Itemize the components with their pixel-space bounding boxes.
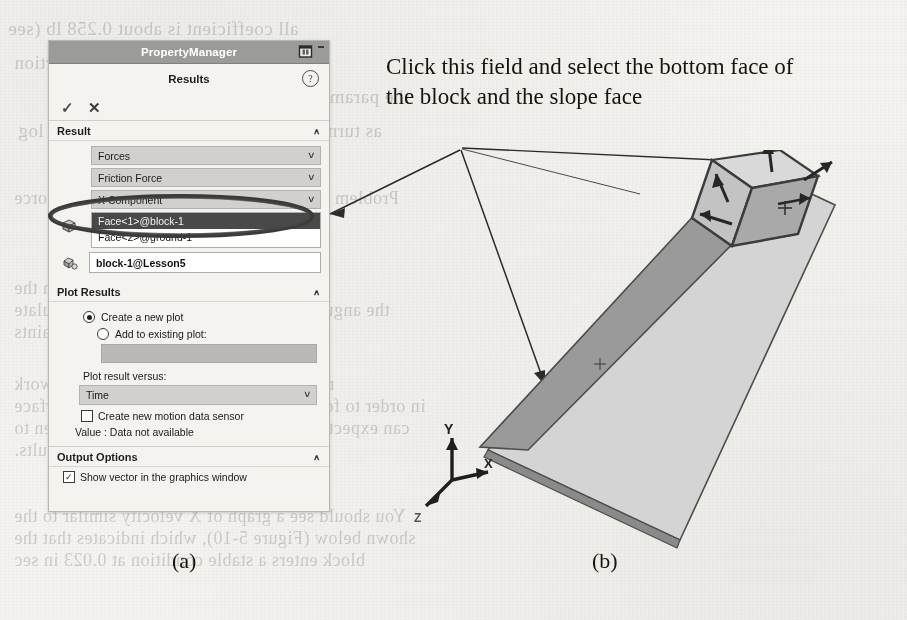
triad-label-y: Y — [444, 421, 454, 437]
model-view[interactable]: Y X Z — [380, 150, 880, 550]
cancel-button[interactable]: ✕ — [88, 100, 101, 115]
existing-plot-select[interactable] — [101, 344, 317, 363]
page-title: Results — [168, 73, 210, 85]
plot-results-body: Create a new plot Add to existing plot: … — [49, 302, 329, 446]
radio-create-new-plot-label: Create a new plot — [101, 311, 183, 323]
result-subcategory-combo[interactable]: Friction Force ∨ — [91, 168, 321, 187]
list-item[interactable]: Face<1>@block-1 — [92, 213, 320, 229]
checkbox-indicator — [81, 410, 93, 422]
help-icon[interactable]: ? — [302, 70, 319, 87]
plot-versus-value: Time — [86, 389, 109, 401]
block-part — [692, 150, 818, 246]
property-manager-header: Results ? — [49, 64, 329, 94]
component-field-row: block-1@Lesson5 — [57, 252, 321, 273]
radio-create-new-plot[interactable]: Create a new plot — [83, 311, 321, 323]
selected-face-1: Face<1>@block-1 — [98, 215, 184, 227]
pin-icon[interactable] — [298, 44, 313, 59]
chevron-down-icon[interactable]: ∨ — [307, 150, 316, 160]
chevron-down-icon[interactable]: ∨ — [303, 389, 312, 399]
section-title-plot-results: Plot Results — [57, 286, 121, 298]
result-section-body: Forces ∨ Friction Force ∨ X Component ∨ — [49, 141, 329, 282]
radio-indicator — [97, 328, 109, 340]
chevron-down-icon[interactable]: ∨ — [307, 194, 316, 204]
radio-indicator — [83, 311, 95, 323]
caption-a: (a) — [172, 548, 196, 574]
result-subcategory-value: Friction Force — [98, 172, 162, 184]
component-icon — [57, 255, 83, 271]
list-item[interactable]: Face<2>@ground-1 — [92, 229, 320, 245]
chevron-up-icon[interactable]: ∧ — [313, 288, 320, 297]
bleedthrough-line: all coefficient is about 0.258 lb (see — [8, 18, 298, 40]
section-header-plot-results[interactable]: Plot Results ∧ — [49, 282, 329, 302]
selected-face-2: Face<2>@ground-1 — [98, 231, 192, 243]
radio-add-existing-plot-label: Add to existing plot: — [115, 328, 207, 340]
bleedthrough-line: shown below (Figure 5-10), which indicat… — [14, 528, 415, 549]
result-category-value: Forces — [98, 150, 130, 162]
plot-versus-combo[interactable]: Time ∨ — [79, 385, 317, 405]
property-manager-panel[interactable]: PropertyManager Results ? ✓ ✕ Result ∧ — [48, 40, 330, 512]
section-header-result[interactable]: Result ∧ — [49, 121, 329, 141]
accept-button[interactable]: ✓ — [61, 100, 74, 115]
checkbox-show-vector[interactable]: ✓ Show vector in the graphics window — [63, 471, 321, 483]
window-title: PropertyManager — [141, 46, 237, 58]
checkbox-create-motion-sensor-label: Create new motion data sensor — [98, 410, 244, 422]
chevron-down-icon[interactable]: ∨ — [307, 172, 316, 182]
caption-b: (b) — [592, 548, 618, 574]
annotation-text: Click this field and select the bottom f… — [386, 52, 806, 112]
scanned-page: all coefficient is about 0.258 lb (seeof… — [0, 0, 907, 620]
result-component-combo[interactable]: X Component ∨ — [91, 190, 321, 209]
component-input[interactable]: block-1@Lesson5 — [89, 252, 321, 273]
property-manager-titlebar: PropertyManager — [49, 41, 329, 64]
face-select-icon — [61, 218, 79, 238]
value-status-text: Value : Data not available — [75, 426, 321, 438]
triad-label-x: X — [484, 456, 493, 471]
section-title-output-options: Output Options — [57, 451, 138, 463]
component-input-value: block-1@Lesson5 — [96, 257, 186, 269]
triad-label-z: Z — [414, 511, 421, 525]
result-category-combo[interactable]: Forces ∨ — [91, 146, 321, 165]
checkbox-indicator: ✓ — [63, 471, 75, 483]
radio-add-existing-plot[interactable]: Add to existing plot: — [97, 328, 321, 340]
result-component-value: X Component — [98, 194, 162, 206]
section-title-result: Result — [57, 125, 91, 137]
plot-versus-label: Plot result versus: — [83, 370, 321, 382]
property-manager-actions: ✓ ✕ — [49, 94, 329, 121]
face-selection-list[interactable]: Face<1>@block-1 Face<2>@ground-1 — [91, 212, 321, 248]
chevron-up-icon[interactable]: ∧ — [313, 453, 320, 462]
section-header-output-options[interactable]: Output Options ∧ — [49, 446, 329, 467]
chevron-up-icon[interactable]: ∧ — [313, 127, 320, 136]
minimize-icon[interactable] — [318, 46, 324, 48]
output-options-body: ✓ Show vector in the graphics window — [49, 467, 329, 487]
coordinate-triad: Y X Z — [414, 421, 493, 525]
checkbox-show-vector-label: Show vector in the graphics window — [80, 471, 247, 483]
checkbox-create-motion-sensor[interactable]: Create new motion data sensor — [81, 410, 321, 422]
